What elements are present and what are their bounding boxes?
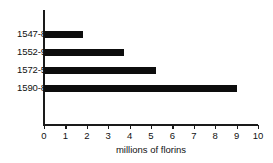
bar-row [44, 63, 156, 77]
x-axis-title: millions of florins [44, 144, 258, 155]
x-tick-label: 0 [34, 130, 54, 142]
bar-chart: 1547-81552-91572-51590-8 012345678910 mi… [0, 0, 273, 163]
x-tick-mark [87, 125, 88, 129]
x-tick-mark [130, 125, 131, 129]
x-tick-mark [44, 125, 45, 129]
x-tick-label: 3 [98, 130, 118, 142]
bar-row [44, 81, 237, 95]
x-tick-label: 6 [162, 130, 182, 142]
x-tick-mark [258, 125, 259, 129]
bar-row [44, 27, 83, 41]
x-tick-mark [194, 125, 195, 129]
bar [44, 31, 83, 38]
x-tick-label: 1 [55, 130, 75, 142]
x-tick-mark [215, 125, 216, 129]
x-tick-label: 10 [248, 130, 268, 142]
x-tick-label: 7 [184, 130, 204, 142]
x-tick-mark [151, 125, 152, 129]
bar [44, 67, 156, 74]
x-tick-label: 5 [141, 130, 161, 142]
x-tick-label: 4 [120, 130, 140, 142]
x-tick-mark [108, 125, 109, 129]
x-tick-label: 8 [205, 130, 225, 142]
category-label: 1590-8 [2, 81, 46, 95]
x-tick-mark [237, 125, 238, 129]
bar [44, 49, 124, 56]
x-tick-mark [172, 125, 173, 129]
x-tick-mark [65, 125, 66, 129]
category-label: 1572-5 [2, 63, 46, 77]
x-tick-label: 9 [227, 130, 247, 142]
bar [44, 85, 237, 92]
category-label: 1547-8 [2, 27, 46, 41]
x-tick-label: 2 [77, 130, 97, 142]
bar-row [44, 45, 124, 59]
category-label: 1552-9 [2, 45, 46, 59]
